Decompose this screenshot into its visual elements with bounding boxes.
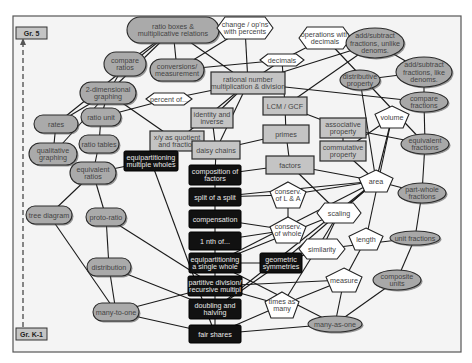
concept-node-label: factors	[204, 174, 226, 183]
concept-node-label: symmetries	[263, 262, 300, 271]
concept-node-label: fractions	[411, 143, 439, 152]
concept-node-qualitative-graphing: qualitativegraphing	[29, 143, 79, 167]
concept-node-label: of whole	[275, 229, 302, 238]
concept-node-label: factors	[279, 161, 301, 170]
concept-node-label: unit fractions	[395, 234, 436, 243]
concept-node-label: graphing	[94, 92, 122, 101]
concept-node-rational-number: rational numbermultiplication & division	[211, 72, 285, 94]
grade-bottom-text: Gr. K-1	[20, 331, 43, 338]
concept-node-label: scaling	[328, 209, 350, 218]
concept-node-label: and fraction	[158, 140, 196, 149]
concept-node-conserv-la: conserv.of L & A	[270, 182, 306, 208]
grade-top-text: Gr. 5	[24, 30, 40, 37]
concept-node-label: compensation	[193, 215, 238, 224]
concept-node-label: length	[356, 235, 376, 244]
concept-node-label: recursive multipl	[189, 285, 241, 294]
concept-node-label: decimals	[311, 37, 340, 46]
concept-node-label: measurement	[155, 69, 199, 78]
concept-node-rates: rates	[34, 115, 80, 135]
concept-node-label: similarity	[308, 245, 336, 254]
concept-node-lcm-gcf: LCM / GCF	[263, 97, 307, 115]
concept-node-label: rates	[48, 120, 64, 129]
concept-node-daisy-chains: daisy chains	[192, 141, 240, 159]
concept-node-label: 1 nth of...	[200, 237, 230, 246]
concept-node-commutative: commutativeproperty	[320, 141, 366, 161]
concept-node-geometric-symmetries: geometricsymmetries	[260, 253, 302, 273]
concept-node-label: ratio tables	[81, 140, 117, 149]
concept-node-label: decimals	[268, 56, 297, 65]
concept-node-equipart-multiple: equipartitioningmultiple wholes	[124, 151, 178, 171]
concept-node-percent-of: percent of...	[146, 93, 192, 105]
concept-node-label: primes	[275, 130, 297, 139]
concept-node-two-d-graphing: 2-dimensionalgraphing	[80, 82, 138, 106]
concept-node-label: denoms.	[361, 46, 389, 55]
concept-node-times-as-many: times asmany	[265, 292, 299, 318]
concept-node-label: split of a split	[194, 193, 236, 202]
concept-node-split-of-split: split of a split	[189, 188, 241, 206]
concept-node-label: property	[330, 150, 357, 159]
concept-node-factors: factors	[266, 156, 314, 174]
concept-node-partitive-division: partitive division/recursive multipl	[188, 276, 242, 296]
concept-node-decimals: decimals	[260, 54, 304, 66]
concept-node-label: inverse	[200, 117, 223, 126]
concept-node-conversions: conversions/measurement	[150, 59, 206, 83]
concept-node-ratio-unit: ratio unit	[81, 108, 123, 128]
grade-bottom-label: Gr. K-1	[16, 328, 47, 340]
concept-node-distributive: distributiveproperty	[340, 70, 382, 92]
concept-node-label: distribution	[92, 263, 127, 272]
concept-node-label: measure	[330, 276, 358, 285]
concept-node-label: graphing	[39, 153, 67, 162]
concept-node-label: multiplicative relations	[138, 29, 209, 38]
concept-node-label: fractions	[410, 101, 438, 110]
concept-node-label: ratios	[116, 63, 134, 72]
concept-node-label: percent of...	[150, 95, 188, 104]
concept-node-ratio-boxes: ratio boxes &multiplicative relations	[127, 17, 221, 45]
concept-node-label: fair shares	[198, 330, 232, 339]
concept-node-label: a single whole	[192, 262, 238, 271]
concept-node-label: halving	[204, 308, 227, 317]
concept-node-proto-ratio: proto-ratio	[86, 208, 128, 228]
concept-node-ratio-tables: ratio tables	[79, 135, 121, 155]
concept-map-canvas: Gr. 5 Gr. K-1 ratio boxes &multiplicativ…	[0, 0, 472, 363]
concept-node-scaling: scaling	[317, 203, 361, 223]
concept-node-compare-ratios: compareratios	[104, 52, 148, 78]
concept-node-label: multiplication & division	[211, 82, 285, 91]
concept-node-conserv-whole: conserv.of whole	[270, 217, 306, 243]
concept-node-label: of L & A	[276, 194, 301, 203]
concept-node-label: ratios	[84, 172, 102, 181]
concept-node-composition-factors: composition offactors	[189, 165, 241, 185]
grade-top-label: Gr. 5	[16, 27, 47, 39]
concept-node-label: property	[347, 79, 374, 88]
concept-node-equipart-single: equipartitioninga single whole	[189, 253, 241, 273]
concept-node-label: with percents	[223, 27, 267, 36]
concept-node-label: units	[389, 279, 405, 288]
concept-node-label: many	[273, 304, 291, 313]
concept-node-label: daisy chains	[196, 146, 236, 155]
concept-node-label: volume	[380, 113, 403, 122]
concept-node-label: ratio unit	[87, 113, 115, 122]
concept-node-distribution: distribution	[87, 258, 133, 278]
concept-node-doubling-halving: doubling andhalving	[189, 299, 241, 319]
concept-node-many-to-one: many-to-one	[93, 303, 141, 323]
concept-node-associative: associativeproperty	[320, 118, 366, 138]
concept-node-ops-decimals: operations withdecimals	[299, 27, 351, 49]
concept-node-label: fractions	[408, 192, 436, 201]
concept-node-label: proto-ratio	[90, 213, 123, 222]
concept-node-primes: primes	[263, 125, 309, 143]
concept-node-equivalent-ratios: equivalentratios	[70, 162, 118, 186]
concept-node-compensation: compensation	[189, 210, 241, 228]
concept-node-label: many-as-one	[314, 320, 356, 329]
concept-map: Gr. 5 Gr. K-1 ratio boxes &multiplicativ…	[0, 0, 472, 363]
concept-node-label: denoms.	[410, 75, 438, 84]
concept-node-change-percents: change / op'nswith percents	[217, 17, 273, 39]
concept-node-tree-diagram: tree diagram	[26, 206, 74, 226]
concept-node-label: LCM / GCF	[267, 102, 304, 111]
concept-node-label: property	[330, 127, 357, 136]
concept-node-label: multiple wholes	[126, 160, 176, 169]
concept-node-similarity: similarity	[299, 239, 345, 259]
concept-node-label: tree diagram	[29, 211, 69, 220]
concept-node-label: area	[369, 177, 383, 186]
concept-node-one-nth-of: 1 nth of...	[189, 232, 241, 250]
concept-node-identity-inverse: identity andinverse	[191, 108, 233, 128]
concept-node-label: many-to-one	[96, 308, 136, 317]
